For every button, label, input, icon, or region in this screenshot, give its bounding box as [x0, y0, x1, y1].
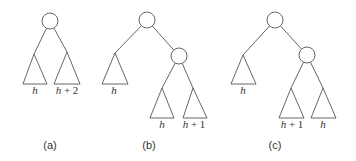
subtree-triangle [150, 88, 174, 118]
subtree-height-label: h [111, 84, 117, 96]
root-node [42, 13, 58, 29]
subtree-triangle [279, 88, 304, 118]
panel-caption: (a) [43, 139, 56, 151]
subtree-height-label: h [159, 118, 165, 130]
subtree-height-label: h [320, 118, 326, 130]
subtree-height-label: h + 2 [56, 84, 79, 96]
tree-edge [152, 26, 173, 50]
subtree-triangle [102, 53, 128, 84]
subtree-triangle [183, 88, 207, 118]
subtree-height-label: h + 1 [183, 118, 206, 130]
root-node [139, 12, 155, 28]
diagram-canvas: hh + 2(a)hhh + 1(b)hh + 1h(c) [0, 0, 356, 161]
tree-edge [115, 26, 141, 53]
tree-edge [243, 26, 270, 55]
child-node [299, 47, 315, 63]
subtree-triangle [54, 52, 80, 84]
subtree-triangle [311, 88, 336, 118]
subtree-height-label: h [240, 84, 246, 96]
subtree-height-label: h + 1 [281, 118, 304, 130]
tree-edge [291, 62, 304, 88]
child-node [171, 48, 187, 64]
tree-edge [54, 28, 67, 52]
tree-edge [34, 28, 47, 54]
tree-edge [310, 62, 323, 88]
panel-a: hh + 2(a) [23, 13, 80, 151]
panel-c: hh + 1h(c) [231, 12, 336, 151]
avl-rotation-diagram: hh + 2(a)hhh + 1(b)hh + 1h(c) [0, 0, 356, 161]
subtree-triangle [231, 55, 256, 84]
panel-caption: (b) [142, 139, 155, 151]
panel-caption: (c) [269, 139, 282, 151]
root-node [267, 12, 283, 28]
tree-edge [182, 63, 193, 88]
panel-b: hhh + 1(b) [102, 12, 207, 151]
subtree-triangle [23, 54, 47, 84]
tree-edge [162, 63, 175, 88]
subtree-height-label: h [32, 84, 38, 96]
tree-edge [280, 26, 301, 49]
